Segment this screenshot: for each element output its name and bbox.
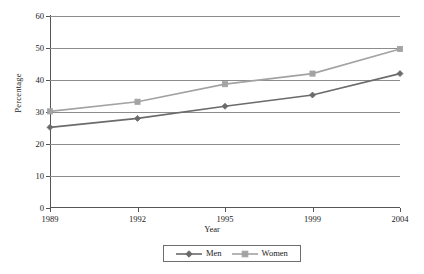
data-point-marker bbox=[310, 71, 315, 76]
y-tick-label: 0 bbox=[4, 204, 44, 213]
plot-area: 0102030405060 19891992199519992004 bbox=[50, 16, 400, 208]
x-tick-label: 1989 bbox=[20, 215, 80, 224]
x-axis-title: Year bbox=[0, 224, 424, 234]
legend-item-women[interactable]: Women bbox=[232, 249, 288, 259]
x-tick-label: 1999 bbox=[283, 215, 343, 224]
legend-item-men[interactable]: Men bbox=[176, 249, 222, 259]
data-point-marker bbox=[47, 124, 53, 130]
data-point-marker bbox=[222, 103, 228, 109]
x-tick-mark bbox=[50, 208, 51, 212]
x-tick-mark bbox=[138, 208, 139, 212]
y-tick-label: 10 bbox=[4, 172, 44, 181]
data-point-marker bbox=[397, 46, 402, 51]
y-tick-label: 30 bbox=[4, 108, 44, 117]
x-tick-mark bbox=[400, 208, 401, 212]
y-tick-label: 20 bbox=[4, 140, 44, 149]
data-point-marker bbox=[222, 82, 227, 87]
x-tick-label: 1995 bbox=[195, 215, 255, 224]
data-point-marker bbox=[310, 92, 316, 98]
x-tick-label: 1992 bbox=[108, 215, 168, 224]
data-point-marker bbox=[47, 109, 52, 114]
legend-label-men: Men bbox=[206, 249, 222, 258]
series-plot bbox=[50, 16, 400, 208]
legend-label-women: Women bbox=[262, 249, 288, 258]
y-tick-label: 60 bbox=[4, 12, 44, 21]
x-tick-mark bbox=[313, 208, 314, 212]
y-tick-label: 40 bbox=[4, 76, 44, 85]
y-axis-title: Percentage bbox=[13, 48, 23, 138]
y-tick-label: 50 bbox=[4, 44, 44, 53]
x-tick-label: 2004 bbox=[370, 215, 424, 224]
series-line-women bbox=[50, 49, 400, 111]
data-point-marker bbox=[135, 99, 140, 104]
legend-marker-square-icon bbox=[232, 249, 258, 259]
legend-marker-diamond-icon bbox=[176, 249, 202, 259]
chart-legend: Men Women bbox=[163, 245, 301, 262]
data-point-marker bbox=[135, 115, 141, 121]
data-point-marker bbox=[397, 71, 403, 77]
line-chart: Percentage 0102030405060 198919921995199… bbox=[0, 0, 424, 274]
x-tick-mark bbox=[225, 208, 226, 212]
